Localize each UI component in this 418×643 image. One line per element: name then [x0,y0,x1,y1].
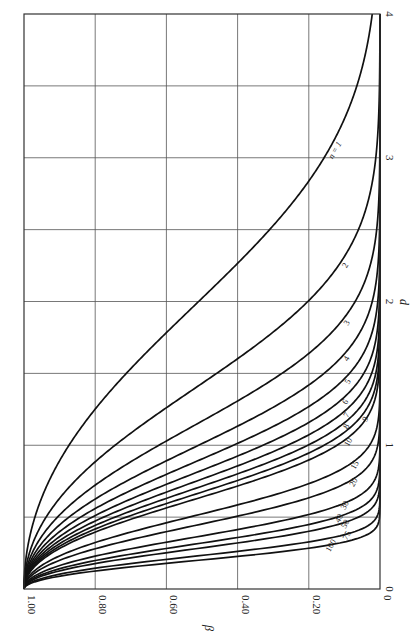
beta-tick-label: 0.20 [311,595,323,615]
curve-label-n-7: 7 [341,410,352,419]
beta-tick-labels: 1.000.800.600.400.200 [26,595,394,615]
curve-label-n-3: 3 [341,318,352,327]
curve-label-n-6: 6 [340,397,351,406]
d-axis-title: d [397,299,411,306]
beta-tick-label: 0 [382,595,394,601]
curve-label-n-5: 5 [342,377,353,386]
curve-label-n-20: 20 [347,476,360,488]
beta-tick-label: 1.00 [26,595,38,615]
d-tick-label: 4 [384,11,396,17]
d-tick-label: 1 [384,443,396,449]
d-tick-label: 0 [384,586,396,592]
d-tick-label: 3 [384,155,396,161]
curve-labels: n = 12345678910152030405075100 [323,140,370,554]
curve-label-n-15: 15 [348,459,361,471]
grid-lines [24,14,380,589]
beta-axis-title: β [202,624,216,631]
beta-tick-label: 0.40 [240,595,252,615]
beta-tick-label: 0.60 [168,595,180,615]
curve-label-n-2: 2 [340,261,351,270]
oc-curve-chart: 1.000.800.600.400.200 01234 n = 12345678… [0,0,418,643]
beta-tick-label: 0.80 [97,595,109,615]
curve-label-n-8: 8 [341,422,352,431]
d-tick-label: 2 [384,299,396,305]
d-tick-labels: 01234 [384,11,396,592]
curve-label-n-4: 4 [341,354,352,363]
curve-label-n-10: 10 [341,436,354,448]
